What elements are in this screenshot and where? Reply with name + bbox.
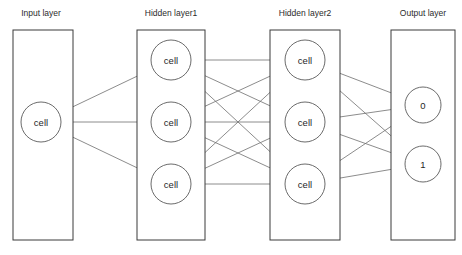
node-hidden1-1[interactable]: cell (151, 102, 191, 142)
node-label-hidden2-1: cell (298, 117, 312, 128)
layer-title-hidden1: Hidden layer1 (145, 8, 198, 18)
layer-box-output (391, 30, 455, 240)
node-label-hidden2-2: cell (298, 179, 312, 190)
node-label-hidden1-1: cell (164, 117, 178, 128)
node-label-hidden1-0: cell (164, 55, 178, 66)
layer-titles-group: Input layerHidden layer1Hidden layer2Out… (21, 8, 446, 18)
node-label-input-0: cell (34, 117, 48, 128)
node-hidden2-0[interactable]: cell (285, 40, 325, 80)
connections-group (60, 60, 408, 184)
node-output-1[interactable]: 1 (405, 146, 441, 182)
layer-title-input: Input layer (21, 8, 61, 18)
neural-network-diagram: ...... cellcellcellcellcellcellcell01 In… (0, 0, 462, 255)
layer-title-hidden2: Hidden layer2 (279, 8, 332, 18)
layer-title-output: Output layer (400, 8, 446, 18)
node-output-0[interactable]: 0 (405, 87, 441, 123)
node-hidden2-1[interactable]: cell (285, 102, 325, 142)
node-input-0[interactable]: cell (21, 102, 61, 142)
node-hidden1-2[interactable]: cell (151, 164, 191, 204)
node-label-hidden1-2: cell (164, 179, 178, 190)
node-hidden1-0[interactable]: cell (151, 40, 191, 80)
node-label-output-0: 0 (420, 100, 425, 111)
layer-boxes-group (13, 30, 455, 240)
node-label-output-1: 1 (420, 159, 425, 170)
node-hidden2-2[interactable]: cell (285, 164, 325, 204)
diagram-canvas: ...... cellcellcellcellcellcellcell01 In… (0, 0, 462, 255)
node-label-hidden2-0: cell (298, 55, 312, 66)
